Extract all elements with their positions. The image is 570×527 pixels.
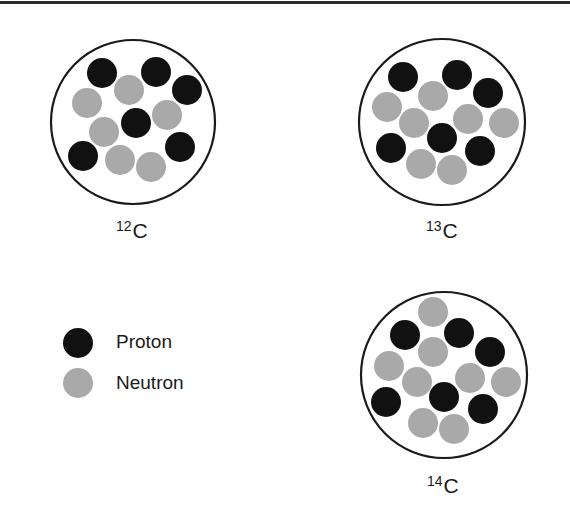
neutron-particle bbox=[114, 75, 144, 105]
element-symbol-c14: C bbox=[444, 474, 459, 497]
label-c13: 13C bbox=[426, 220, 458, 241]
proton-particle bbox=[87, 58, 117, 88]
neutron-particle bbox=[418, 297, 448, 327]
proton-particle bbox=[429, 382, 459, 412]
neutron-particle bbox=[418, 81, 448, 111]
neutron-particle bbox=[374, 351, 404, 381]
neutron-particle bbox=[437, 155, 467, 185]
legend-proton-swatch-icon bbox=[63, 328, 93, 358]
proton-particle bbox=[390, 320, 420, 350]
proton-particle bbox=[68, 141, 98, 171]
neutron-particle bbox=[406, 149, 436, 179]
element-symbol-c13: C bbox=[443, 219, 458, 242]
proton-particle bbox=[376, 133, 406, 163]
legend-neutron-swatch-icon bbox=[63, 368, 93, 398]
mass-number-c12: 12 bbox=[116, 218, 132, 234]
neutron-particle bbox=[402, 367, 432, 397]
neutron-particle bbox=[152, 100, 182, 130]
proton-particle bbox=[444, 318, 474, 348]
legend-proton-label: Proton bbox=[116, 332, 172, 351]
proton-particle bbox=[371, 387, 401, 417]
proton-particle bbox=[465, 136, 495, 166]
proton-particle bbox=[388, 62, 418, 92]
neutron-particle bbox=[72, 88, 102, 118]
proton-particle bbox=[121, 108, 151, 138]
neutron-particle bbox=[399, 108, 429, 138]
proton-particle bbox=[165, 132, 195, 162]
neutron-particle bbox=[372, 92, 402, 122]
proton-particle bbox=[427, 123, 457, 153]
neutron-particle bbox=[455, 363, 485, 393]
proton-particle bbox=[141, 57, 171, 87]
nucleus-c14 bbox=[361, 292, 527, 458]
legend-neutron-label: Neutron bbox=[116, 373, 184, 392]
proton-particle bbox=[442, 60, 472, 90]
neutron-particle bbox=[136, 152, 166, 182]
label-c14: 14C bbox=[427, 475, 459, 496]
neutron-particle bbox=[491, 367, 521, 397]
neutron-particle bbox=[439, 414, 469, 444]
proton-particle bbox=[172, 75, 202, 105]
neutron-particle bbox=[408, 408, 438, 438]
element-symbol-c12: C bbox=[133, 219, 148, 242]
label-c12: 12C bbox=[116, 220, 148, 241]
neutron-particle bbox=[89, 117, 119, 147]
proton-particle bbox=[468, 394, 498, 424]
nucleus-c12 bbox=[51, 40, 215, 204]
proton-particle bbox=[475, 337, 505, 367]
neutron-particle bbox=[489, 108, 519, 138]
legend-swatches bbox=[63, 328, 93, 398]
mass-number-c13: 13 bbox=[426, 218, 442, 234]
neutron-particle bbox=[418, 337, 448, 367]
neutron-particle bbox=[453, 104, 483, 134]
isotope-diagram-canvas bbox=[0, 0, 570, 527]
neutron-particle bbox=[105, 145, 135, 175]
mass-number-c14: 14 bbox=[427, 473, 443, 489]
proton-particle bbox=[473, 78, 503, 108]
nucleus-c13 bbox=[359, 39, 525, 205]
